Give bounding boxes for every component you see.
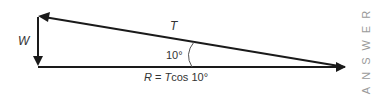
resultant-cos-term: cos 10° — [171, 71, 208, 83]
resultant-equation: R = Tcos 10° — [144, 71, 208, 83]
force-triangle — [0, 0, 378, 100]
angle-arc — [188, 42, 194, 67]
angle-label: 10° — [166, 49, 183, 61]
resultant-arrowhead-icon — [336, 62, 346, 72]
tension-label: T — [170, 19, 177, 33]
force-diagram: T W 10° R = Tcos 10° ANSWER — [0, 0, 378, 100]
answer-side-label: ANSWER — [360, 0, 372, 99]
resultant-symbol: R — [144, 71, 152, 83]
tension-arrowhead-icon — [38, 12, 50, 22]
resultant-equals: = — [152, 71, 165, 83]
tension-vector-line — [44, 17, 345, 67]
weight-arrowhead-icon — [33, 56, 43, 66]
weight-label: W — [18, 34, 29, 48]
